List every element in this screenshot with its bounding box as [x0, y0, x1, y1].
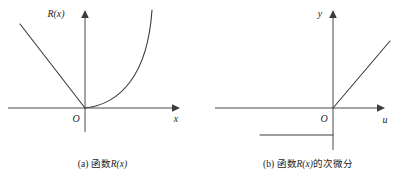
y-axis-arrow-icon-a — [81, 10, 89, 18]
caption-a-tag: (a) — [78, 159, 89, 169]
figure-panel-a: R(x) x O (a) 函数R(x) — [0, 0, 205, 180]
figure-panel-b: y u O (b) 函数R(x)的次微分 — [205, 0, 411, 180]
caption-a-text: 函数 — [91, 159, 111, 169]
caption-b-text: 函数 — [277, 159, 297, 169]
plot-a-svg: R(x) x O — [0, 0, 205, 158]
origin-label-a: O — [72, 113, 79, 124]
origin-label-b: O — [320, 113, 327, 124]
caption-a: (a) 函数R(x) — [0, 158, 205, 171]
caption-b-suffix: 的次微分 — [313, 159, 353, 169]
caption-b: (b) 函数R(x)的次微分 — [205, 158, 411, 171]
plot-b-svg: y u O — [205, 0, 411, 158]
curve-left-linear-branch-a — [20, 24, 85, 108]
x-axis-label-b: u — [383, 114, 388, 125]
curve-right-convex-branch-a — [85, 10, 152, 108]
y-axis-label-a: R(x) — [46, 8, 65, 20]
caption-b-tag: (b) — [263, 159, 274, 169]
y-axis-label-b: y — [317, 8, 323, 19]
figure-container: R(x) x O (a) 函数R(x) y u O (b) 函数R( — [0, 0, 411, 180]
curve-increasing-ray-branch-b — [333, 41, 390, 108]
x-axis-arrow-icon-b — [377, 104, 385, 112]
caption-a-math: R(x) — [111, 159, 127, 169]
caption-b-math: R(x) — [297, 159, 313, 169]
y-axis-arrow-icon-b — [329, 10, 337, 18]
x-axis-arrow-icon-a — [172, 104, 180, 112]
x-axis-label-a: x — [173, 113, 179, 124]
